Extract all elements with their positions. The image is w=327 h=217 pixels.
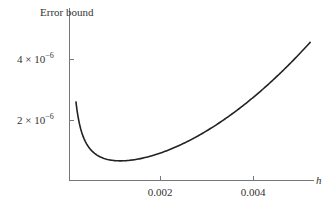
y-tick-label-2e-6: 2 × 10−6	[17, 112, 54, 126]
x-tick-label-0.002: 0.002	[148, 186, 173, 198]
y-tick-label-4e-6: 4 × 10−6	[17, 51, 54, 65]
x-tick-label-0.004: 0.004	[241, 186, 266, 198]
error-bound-curve	[76, 42, 311, 161]
y-axis-label: Error bound	[40, 6, 94, 18]
chart: Error bound 4 × 10−6 2 × 10−6 0.002 0.00…	[0, 0, 327, 217]
x-axis-label: h	[316, 174, 322, 186]
